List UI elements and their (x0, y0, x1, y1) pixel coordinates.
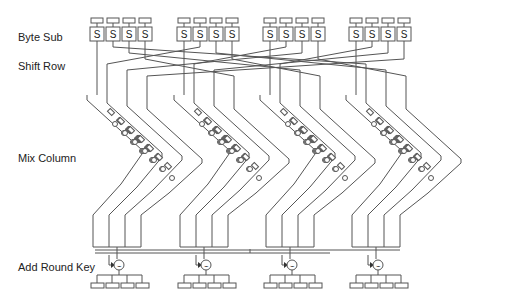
input-byte-box (210, 18, 222, 23)
output-byte-box (294, 283, 307, 288)
output-byte-box (91, 283, 104, 288)
input-byte-box (366, 18, 378, 23)
input-byte-box (226, 18, 238, 23)
mix-xor-node (200, 122, 205, 127)
mix-xor-node (429, 176, 434, 181)
output-byte-box (380, 283, 393, 288)
mix-xor-node (382, 131, 387, 136)
sbox-label: S (299, 29, 306, 40)
mix-xor-node (170, 176, 175, 181)
mix-xor-node (343, 176, 348, 181)
mix-xor-node (334, 167, 339, 172)
mix-xor-node (239, 158, 244, 163)
xor-glyph: ⌣ (376, 262, 381, 269)
output-byte-box (395, 283, 408, 288)
sbox-label: S (229, 29, 236, 40)
mix-xor-node (133, 140, 138, 145)
mix-xor-node (143, 149, 148, 154)
sbox-label: S (401, 29, 408, 40)
mix-xor-node (306, 140, 311, 145)
sbox-label: S (197, 29, 204, 40)
input-byte-box (178, 18, 190, 23)
mix-xor-node (113, 122, 118, 127)
sbox-label: S (385, 29, 392, 40)
input-byte-box (194, 18, 206, 23)
mix-xor-node (402, 149, 407, 154)
output-byte-box (365, 283, 378, 288)
mix-xor-node (325, 158, 330, 163)
mix-xor-node (248, 167, 253, 172)
input-byte-box (91, 18, 103, 23)
sbox-label: S (267, 29, 274, 40)
input-byte-box (398, 18, 410, 23)
input-byte-box (296, 18, 308, 23)
output-byte-box (136, 283, 149, 288)
xor-glyph: ⌣ (117, 262, 122, 269)
sbox-label: S (283, 29, 290, 40)
mix-xor-node (411, 158, 416, 163)
mix-xor-node (230, 149, 235, 154)
mix-xor-node (372, 122, 377, 127)
mix-xor-node (316, 149, 321, 154)
sbox-label: S (213, 29, 220, 40)
sbox-label: S (353, 29, 360, 40)
output-byte-box (178, 283, 191, 288)
mix-xor-node (161, 167, 166, 172)
mix-xor-node (257, 176, 262, 181)
input-byte-box (139, 18, 151, 23)
mix-xor-node (152, 158, 157, 163)
input-byte-box (382, 18, 394, 23)
output-byte-box (193, 283, 206, 288)
input-byte-box (350, 18, 362, 23)
output-byte-box (106, 283, 119, 288)
output-byte-box (121, 283, 134, 288)
mix-xor-node (123, 131, 128, 136)
sbox-label: S (315, 29, 322, 40)
input-byte-box (107, 18, 119, 23)
mix-xor-node (392, 140, 397, 145)
output-byte-box (309, 283, 322, 288)
input-byte-box (280, 18, 292, 23)
sbox-label: S (181, 29, 188, 40)
output-byte-box (223, 283, 236, 288)
mix-xor-node (220, 140, 225, 145)
sbox-label: S (369, 29, 376, 40)
output-byte-box (279, 283, 292, 288)
output-byte-box (208, 283, 221, 288)
sbox-label: S (126, 29, 133, 40)
input-byte-box (264, 18, 276, 23)
xor-glyph: ⌣ (204, 262, 209, 269)
mix-xor-node (286, 122, 291, 127)
sbox-label: S (110, 29, 117, 40)
sbox-label: S (142, 29, 149, 40)
sbox-label: S (94, 29, 101, 40)
mix-xor-node (210, 131, 215, 136)
mix-xor-node (420, 167, 425, 172)
xor-glyph: ⌣ (290, 262, 295, 269)
input-byte-box (312, 18, 324, 23)
output-byte-box (264, 283, 277, 288)
mix-xor-node (296, 131, 301, 136)
aes-round-diagram: SSSSSSSSSSSSSSSS⌣⌣⌣⌣ (0, 0, 507, 305)
output-byte-box (350, 283, 363, 288)
input-byte-box (123, 18, 135, 23)
